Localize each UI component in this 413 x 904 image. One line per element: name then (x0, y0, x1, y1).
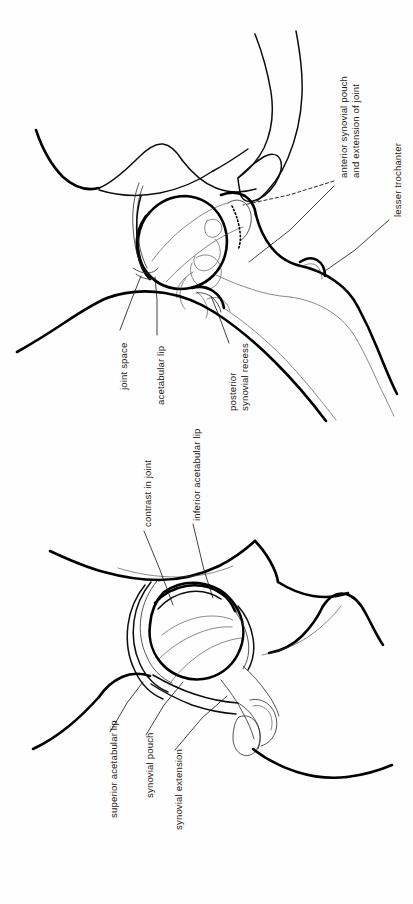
femoral-head-contrast-b (166, 227, 243, 282)
label-anterior-synovial-pouch: anterior synovial pouch (338, 76, 350, 178)
posterior-recess-lobe (192, 287, 224, 308)
label-posterior-synovial-recess-line2: synovial recess (239, 343, 250, 411)
leader-synovial-extension (175, 696, 227, 750)
lower-left-pelvic-contour (99, 674, 150, 697)
diagram-page: anterior synovial pouch and extension of… (0, 0, 413, 904)
femoral-shaft-inferior-inner (290, 297, 357, 340)
ischial-border (213, 149, 248, 171)
lower-soft-tissue-bump (269, 606, 323, 653)
lower-iliac-contour (50, 551, 159, 580)
femoral-neck-inferior (214, 274, 290, 297)
lower-soft-tissue-thin (262, 606, 341, 655)
lower-femoral-head (150, 583, 244, 680)
greater-trochanter-contour (256, 215, 297, 265)
label-joint-space: joint space (118, 342, 129, 390)
label-joint-space-text: joint space (118, 342, 129, 390)
label-synovial-pouch-text: synovial pouch (144, 732, 155, 798)
lower-femoral-neck-inferior (221, 680, 254, 739)
pubic-ramus-contour (36, 130, 99, 189)
fovea-irregular-outline (205, 219, 222, 237)
label-superior-acetabular-lip: superior acetabular lip (108, 720, 119, 818)
label-contrast-in-joint-text: contrast in joint (142, 460, 153, 527)
neck-contrast-line-c (171, 638, 242, 682)
label-anterior-extension-of-joint: and extension of joint (350, 84, 362, 178)
synovial-pouch-dotted-margin (232, 206, 240, 250)
posterior-soft-tissue-contour (17, 298, 107, 352)
lower-trochanter-inner (253, 705, 272, 730)
label-anterior-synovial-pouch-line1: anterior synovial pouch (338, 76, 349, 178)
label-acetabular-lip: acetabular lip (155, 346, 166, 405)
label-posterior-synovial-recess-line1: posterior (227, 372, 238, 411)
label-anterior-extension-line2: and extension of joint (350, 84, 361, 178)
leader-joint-space (120, 276, 141, 330)
label-synovial-extension: synovial extension (173, 749, 184, 830)
label-lesser-trochanter-text: lesser trochanter (392, 143, 403, 217)
lower-soft-tissue-bump-far (366, 614, 383, 645)
label-inferior-acetabular-lip: inferior acetabular lip (191, 428, 202, 521)
lower-left-pelvic-tail (33, 697, 99, 749)
lower-femoral-shaft-contour-right (347, 765, 392, 777)
lower-femoral-neck-superior (243, 666, 279, 716)
lower-figure-group (33, 541, 392, 778)
label-acetabular-lip-text: acetabular lip (155, 346, 166, 405)
label-contrast-in-joint: contrast in joint (142, 460, 153, 527)
posterior-soft-tissue-mid (107, 291, 214, 312)
label-synovial-extension-text: synovial extension (173, 749, 184, 830)
leader-lesser-trochanter (325, 220, 389, 271)
leader-acetabular-lip (155, 277, 157, 335)
trabecular-pattern-4 (177, 272, 193, 298)
neck-contrast-line-a (162, 616, 233, 635)
lower-femoral-shaft-contour (253, 749, 347, 778)
label-inferior-acetabular-lip-text: inferior acetabular lip (191, 428, 202, 521)
label-lesser-trochanter: lesser trochanter (392, 143, 403, 217)
label-posterior-text: posterior (227, 372, 238, 411)
superior-pubic-ridge (99, 144, 182, 188)
lower-iliac-notch (255, 541, 278, 582)
label-synovial-pouch: synovial pouch (144, 732, 155, 798)
iliac-wing-contour (238, 34, 272, 178)
neck-contrast-line-b (158, 627, 232, 660)
acetabular-roof-line (182, 160, 256, 192)
femoral-head-outline (137, 196, 227, 289)
label-superior-acetabular-lip-text: superior acetabular lip (108, 720, 119, 818)
label-synovial-recess-text: synovial recess (239, 343, 250, 411)
